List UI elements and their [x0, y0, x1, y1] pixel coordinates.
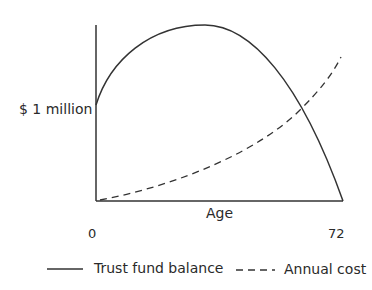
trust-fund-balance-line	[96, 25, 343, 201]
legend-label-annual-cost: Annual cost	[284, 261, 366, 277]
chart-canvas	[0, 0, 372, 290]
x-axis-label: Age	[206, 205, 233, 221]
y-tick-label: $ 1 million	[19, 101, 92, 117]
annual-cost-line	[100, 57, 341, 200]
x-tick-start: 0	[88, 226, 96, 241]
legend-label-trust-fund: Trust fund balance	[94, 260, 224, 276]
x-tick-end: 72	[328, 226, 345, 241]
